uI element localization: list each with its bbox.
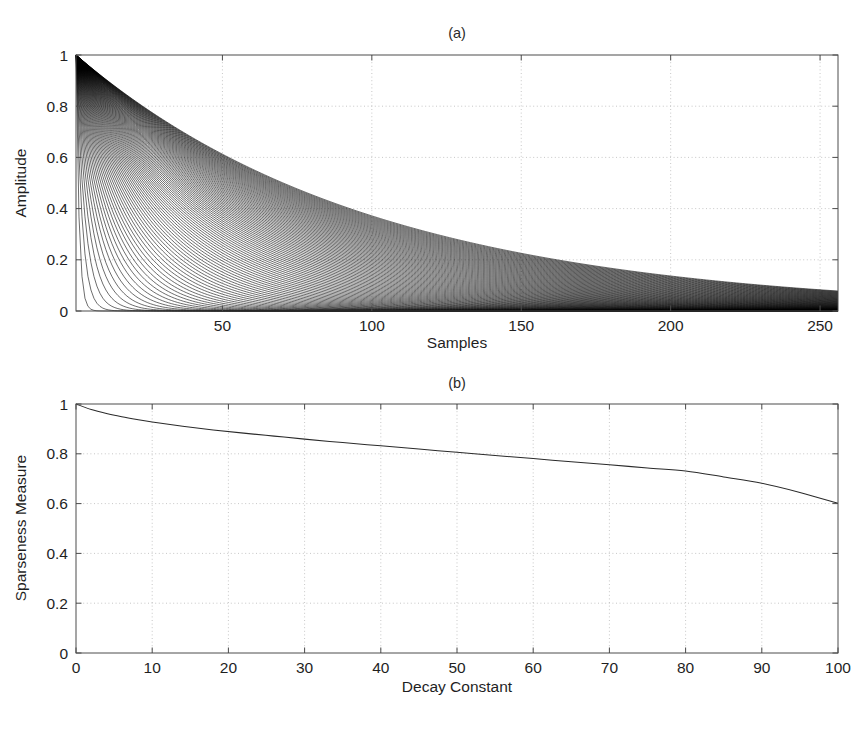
- decay-curve: [76, 55, 838, 311]
- decay-curve: [76, 55, 838, 309]
- panel-b-gridlines: [76, 404, 838, 653]
- decay-curve: [76, 55, 838, 304]
- panel-a: (a) 50100150200250 00.20.40.60.81 Sample…: [12, 25, 838, 351]
- panel-b-y-tick-labels: 00.20.40.60.81: [46, 396, 68, 662]
- x-tick-label: 50: [214, 317, 232, 334]
- y-tick-label: 1: [59, 396, 68, 413]
- axes-box: [76, 404, 838, 653]
- x-tick-label: 70: [601, 659, 619, 676]
- x-tick-label: 40: [372, 659, 390, 676]
- decay-curve: [76, 55, 838, 295]
- y-tick-label: 0.4: [46, 545, 68, 562]
- decay-curve: [76, 55, 838, 311]
- panel-b-x-tick-labels: 0102030405060708090100: [72, 659, 852, 676]
- panel-a-decay-curves: [76, 55, 838, 311]
- x-tick-label: 250: [807, 317, 833, 334]
- x-tick-label: 100: [825, 659, 851, 676]
- decay-curve: [76, 55, 838, 311]
- decay-curve: [76, 55, 838, 292]
- x-tick-label: 80: [677, 659, 695, 676]
- decay-curve: [76, 55, 838, 310]
- y-tick-label: 0.2: [46, 595, 68, 612]
- y-tick-label: 0.8: [46, 98, 68, 115]
- decay-curve: [76, 55, 838, 307]
- x-tick-label: 30: [296, 659, 314, 676]
- decay-curve: [76, 55, 838, 311]
- panel-a-x-tick-labels: 50100150200250: [214, 317, 834, 334]
- y-tick-label: 0.2: [46, 251, 68, 268]
- panel-b-tick-marks: [76, 404, 838, 653]
- x-tick-label: 20: [220, 659, 238, 676]
- y-tick-label: 0.6: [46, 149, 68, 166]
- x-tick-label: 150: [508, 317, 534, 334]
- y-tick-label: 0.4: [46, 200, 68, 217]
- y-tick-label: 0.8: [46, 445, 68, 462]
- x-tick-label: 90: [753, 659, 771, 676]
- y-tick-label: 1: [59, 47, 68, 64]
- panel-a-title: (a): [448, 25, 466, 41]
- panel-b-x-axis-title: Decay Constant: [402, 678, 513, 695]
- decay-curve: [76, 55, 838, 300]
- decay-curve: [76, 55, 838, 308]
- panel-a-y-axis-title: Amplitude: [12, 149, 29, 218]
- panel-b-axes-frame: [76, 404, 838, 653]
- panel-b-y-axis-title: Sparseness Measure: [12, 455, 29, 601]
- decay-curve: [76, 55, 838, 309]
- figure-canvas: (a) 50100150200250 00.20.40.60.81 Sample…: [0, 0, 868, 732]
- decay-curve: [76, 55, 838, 310]
- x-tick-label: 50: [448, 659, 466, 676]
- panel-b-title: (b): [448, 375, 466, 391]
- y-tick-label: 0: [59, 645, 68, 662]
- y-tick-label: 0: [59, 303, 68, 320]
- decay-curve: [76, 55, 838, 311]
- panel-a-y-tick-labels: 00.20.40.60.81: [46, 47, 68, 320]
- x-tick-label: 10: [144, 659, 162, 676]
- x-tick-label: 200: [658, 317, 684, 334]
- decay-curve: [76, 55, 838, 298]
- decay-curve: [76, 55, 838, 310]
- x-tick-label: 60: [525, 659, 543, 676]
- y-tick-label: 0.6: [46, 495, 68, 512]
- panel-b: (b) 0102030405060708090100 00.20.40.60.8…: [12, 375, 851, 695]
- x-tick-label: 0: [72, 659, 81, 676]
- x-tick-label: 100: [359, 317, 385, 334]
- decay-curve: [76, 55, 838, 295]
- panel-a-x-axis-title: Samples: [427, 334, 488, 351]
